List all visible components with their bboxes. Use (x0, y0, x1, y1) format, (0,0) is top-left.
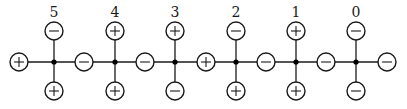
bottom-charge-positive-icon (45, 82, 63, 100)
junction-labels: 543210 (50, 4, 361, 20)
junction-label: 2 (232, 4, 241, 20)
top-charge-negative-icon (45, 22, 63, 40)
bottom-charge-positive-icon (227, 82, 245, 100)
junction-label: 4 (111, 4, 120, 20)
top-charge-positive-icon (106, 22, 124, 40)
chain-charge-negative-icon (378, 53, 396, 71)
junction-dot (172, 59, 177, 64)
chain-charge-negative-icon (317, 53, 335, 71)
junction-label: 5 (50, 4, 59, 20)
bottom-charge-negative-icon (347, 82, 365, 100)
bottom-charge-negative-icon (166, 82, 184, 100)
junction-dot (293, 59, 298, 64)
bottom-charge-positive-icon (106, 82, 124, 100)
top-charge-negative-icon (227, 22, 245, 40)
junction-dot (233, 59, 238, 64)
top-charge-positive-icon (166, 22, 184, 40)
junction-dot (51, 59, 56, 64)
nodes (10, 22, 396, 100)
chain-charge-positive-icon (197, 53, 215, 71)
junction-label: 3 (171, 4, 180, 20)
chain-charge-negative-icon (75, 53, 93, 71)
top-charge-positive-icon (287, 22, 305, 40)
chain-charge-negative-icon (136, 53, 154, 71)
junction-dot (112, 59, 117, 64)
charge-chain-diagram: 543210 (0, 0, 407, 109)
bottom-charge-positive-icon (287, 82, 305, 100)
junction-label: 0 (352, 4, 361, 20)
chain-charge-negative-icon (257, 53, 275, 71)
chain-charge-positive-icon (10, 53, 28, 71)
junction-dot (353, 59, 358, 64)
top-charge-negative-icon (347, 22, 365, 40)
junction-label: 1 (292, 4, 301, 20)
